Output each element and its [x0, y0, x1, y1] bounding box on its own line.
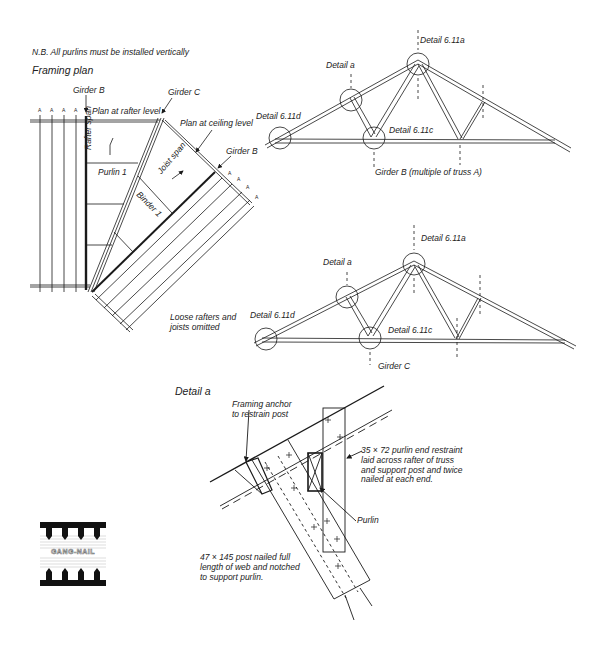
truss-c-caption: Girder C — [378, 362, 410, 372]
svg-text:A: A — [38, 107, 42, 113]
framing-plan-title: Framing plan — [32, 64, 93, 76]
label-girder-b-right: Girder B — [226, 147, 258, 157]
logo-text: GANG-NAIL — [40, 548, 106, 555]
svg-text:A: A — [237, 176, 241, 182]
svg-text:A: A — [62, 107, 66, 113]
truss-c-detail-a-label: Detail a — [323, 258, 352, 268]
detail-a-restraint-label: 35 × 72 purlin end restraint laid across… — [361, 446, 463, 485]
truss-b-apex-label: Detail 6.11a — [420, 36, 465, 46]
gang-nail-logo: GANG-NAIL — [40, 522, 106, 586]
svg-text:A: A — [255, 194, 259, 200]
detail-a-purlin-label: Purlin — [357, 516, 379, 526]
framing-plan — [30, 95, 254, 332]
truss-c-bottom-label: Detail 6.11c — [388, 326, 432, 336]
truss-b-detail-a-label: Detail a — [326, 61, 355, 71]
svg-text:A: A — [50, 107, 54, 113]
truss-b-bottom-label: Detail 6.11c — [389, 126, 433, 136]
truss-c-heel-label: Detail 6.11d — [250, 311, 295, 321]
label-plan-rafter: Plan at rafter level — [92, 107, 161, 117]
label-girder-b-top: Girder B — [73, 86, 105, 96]
detail-a-title: Detail a — [175, 385, 211, 397]
truss-b-heel-label: Detail 6.11d — [256, 112, 301, 122]
svg-text:A: A — [74, 107, 78, 113]
svg-text:A: A — [228, 170, 232, 176]
svg-text:A: A — [246, 184, 250, 190]
detail-a-anchor-label: Framing anchor to restrain post — [232, 400, 292, 420]
label-rafter-span: Rafter span — [84, 106, 94, 150]
label-purlin-1: Purlin 1 — [98, 168, 127, 178]
truss-girder-c — [254, 225, 576, 365]
note-purlins: N.B. All purlins must be installed verti… — [32, 48, 189, 58]
label-plan-ceiling: Plan at ceiling level — [180, 119, 253, 129]
detail-a-drawing — [210, 386, 392, 620]
truss-b-caption: Girder B (multiple of truss A) — [375, 168, 482, 178]
truss-c-apex-label: Detail 6.11a — [421, 234, 466, 244]
detail-a-post-label: 47 × 145 post nailed full length of web … — [200, 553, 300, 582]
truss-girder-b — [265, 30, 571, 168]
label-loose-rafters: Loose rafters and joists omitted — [170, 313, 236, 333]
label-girder-c: Girder C — [168, 88, 200, 98]
